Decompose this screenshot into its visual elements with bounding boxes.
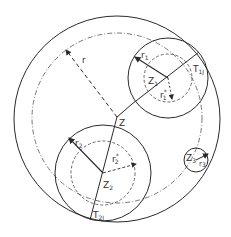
label-t1j: T1J bbox=[192, 64, 204, 76]
label-r3: r3 bbox=[199, 160, 206, 168]
label-r1: r1 bbox=[141, 50, 149, 61]
label-r1-star: r*1 bbox=[160, 88, 167, 101]
diagram-canvas: r Z r1 Z1 r*1 T1J r2 Z2 r*2 T2J Z3 r3 bbox=[0, 0, 231, 237]
label-r: r bbox=[82, 55, 86, 65]
connector-z-z1 bbox=[117, 52, 199, 117]
label-z: Z bbox=[119, 118, 125, 128]
label-z1: Z1 bbox=[148, 76, 158, 87]
label-r2: r2 bbox=[75, 138, 83, 149]
radius-r3 bbox=[196, 154, 208, 160]
label-z2: Z2 bbox=[103, 180, 113, 191]
radius-r2-star bbox=[103, 164, 136, 173]
nested-circles-diagram: r Z r1 Z1 r*1 T1J r2 Z2 r*2 T2J Z3 r3 bbox=[0, 0, 231, 237]
connector-z-z2 bbox=[90, 117, 117, 220]
radius-r1-star bbox=[168, 78, 172, 99]
radius-r1 bbox=[135, 57, 168, 78]
label-r2-star: r*2 bbox=[112, 152, 119, 165]
radius-r-line bbox=[66, 50, 117, 117]
label-z3: Z3 bbox=[186, 153, 196, 164]
outer-circle bbox=[14, 16, 220, 222]
